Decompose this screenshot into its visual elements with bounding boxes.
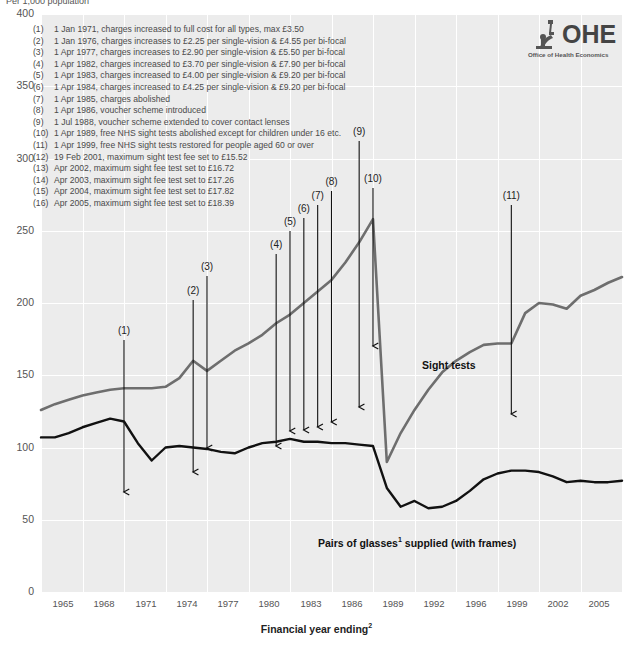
series-label-sight-tests: Sight tests [422,359,476,371]
microscope-icon [528,18,564,52]
annotation-arrow-11: (11) [503,190,520,414]
annotation-arrow-4: (4) [270,239,282,446]
arrow-label: (6) [298,203,310,214]
arrow-label: (1) [118,325,130,336]
logo-text: OHE [562,20,616,49]
annotation-arrow-1: (1) [118,325,130,492]
series-label-glasses-rest: supplied (with frames) [402,537,516,549]
series-label-glasses-text: Pairs of glasses [318,537,398,549]
annotation-arrow-8: (8) [325,176,337,422]
annotation-arrow-3: (3) [201,261,213,448]
arrow-label: (7) [312,190,324,201]
series-overlay: (1)(2)(3)(4)(5)(6)(7)(8)(9)(10)(11) [0,0,633,650]
arrow-label: (2) [187,285,199,296]
arrow-label: (4) [270,239,282,250]
arrow-label: (5) [284,216,296,227]
arrow-label: (3) [201,261,213,272]
annotation-arrow-2: (2) [187,285,199,472]
series-label-glasses: Pairs of glasses1 supplied (with frames) [318,536,516,549]
annotation-arrow-9: (9) [353,126,365,407]
arrow-label: (8) [325,176,337,187]
annotation-arrow-5: (5) [284,216,296,431]
arrow-label: (10) [364,173,382,184]
arrow-label: (11) [503,190,520,201]
annotation-arrow-6: (6) [298,203,310,430]
logo-subtitle: Office of Health Economics [528,51,608,58]
ohe-logo: OHE Office of Health Economics [528,18,628,64]
annotation-arrow-7: (7) [312,190,324,427]
arrow-label: (9) [353,126,365,137]
series-line-glasses [41,419,622,509]
chart-container: Per 1,000 population 4003503002502001501… [0,0,633,650]
